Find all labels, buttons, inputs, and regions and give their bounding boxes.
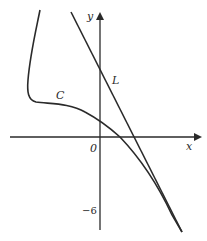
diagram-canvas: y x 0 −6 L C: [0, 0, 207, 241]
y-axis-label: y: [86, 10, 94, 23]
origin-label: 0: [90, 142, 97, 155]
x-axis-label: x: [186, 140, 193, 153]
line-l: [71, 12, 182, 232]
curve-c: [28, 10, 182, 232]
line-l-label: L: [111, 74, 119, 87]
curve-c-label: C: [56, 89, 65, 102]
y-tick-label: −6: [82, 205, 97, 216]
